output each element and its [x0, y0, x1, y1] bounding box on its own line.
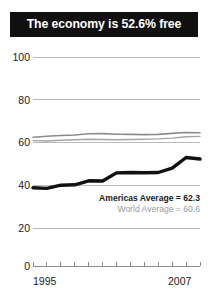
plot-area [0, 0, 210, 304]
series-line-country-score [33, 158, 200, 189]
legend-item-world-average: World Average = 60.6 [60, 204, 200, 215]
chart-figure: The economy is 52.6% free 100 80 60 40 2… [0, 0, 210, 304]
legend-item-americas-average: Americas Average = 62.3 [60, 193, 200, 204]
chart-legend: Americas Average = 62.3 World Average = … [60, 193, 200, 215]
series-line-world-average [33, 136, 200, 141]
series-line-americas-average [33, 133, 200, 138]
x-axis [33, 262, 200, 266]
